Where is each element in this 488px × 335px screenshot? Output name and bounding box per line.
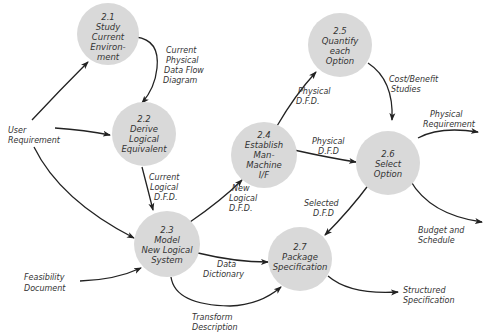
flow-user-to-2-2 (55, 128, 110, 135)
flow-2-6-to-budget (410, 180, 482, 222)
process-bubble-2-5: 2.5QuantifyeachOption (308, 13, 372, 77)
process-bubble-2-3: 2.3ModelNew LogicalSystem (134, 211, 200, 277)
external-feasibility-document: FeasibilityDocument (24, 273, 66, 293)
process-bubble-2-4: 2.4EstablishMan-MachineI/F (231, 122, 297, 188)
label-current-logical-dfd: CurrentLogicalD.F.D. (149, 173, 180, 202)
label-structured-specification: StructuredSpecification (403, 286, 455, 305)
flow-2-1-to-2-2 (136, 37, 157, 103)
flow-2-5-to-2-6 (368, 63, 392, 120)
label-selected-dfd: SelectedD.F.D (304, 199, 340, 218)
flow-feasibility-to-2-3 (80, 268, 141, 281)
flow-2-6-to-physical-requirement (418, 130, 478, 138)
external-user-requirement: UserRequirement (8, 126, 61, 145)
label-transform-description: TransformDescription (192, 313, 238, 332)
label-cost-benefit-studies: Cost/BenefitStudies (389, 75, 439, 94)
flow-user-to-2-1 (32, 62, 88, 120)
flow-user-to-2-3 (34, 147, 134, 238)
process-bubble-2-6: 2.6SelectOption (356, 131, 420, 195)
process-bubble-2-7: 2.7PackageSpecification (268, 227, 332, 291)
label-physical-dfd-to-2-6: PhysicalD.F.D (312, 137, 345, 156)
process-bubble-2-2: 2.2DeriveLogicalEquivalent (112, 102, 176, 166)
label-physical-requirement: PhysicalRequirement (423, 110, 476, 129)
flow-2-3-to-2-7-transform (171, 277, 281, 306)
label-budget-and-schedule: Budget andSchedule (418, 226, 465, 245)
label-current-physical-dfd: CurrentPhysicalData FlowDiagram (163, 46, 204, 85)
process-bubble-2-1: 2.1StudyCurrentEnviron-ment (77, 3, 139, 65)
label-physical-dfd-to-2-5: PhysicalD.F.D. (296, 87, 331, 106)
label-data-dictionary: DataDictionary (203, 260, 244, 279)
flow-2-7-to-structured-specification (328, 276, 398, 292)
label-new-logical-dfd: NewLogicalD.F.D. (229, 184, 258, 213)
data-flow-diagram: 2.1StudyCurrentEnviron-ment 2.2DeriveLog… (0, 0, 488, 335)
